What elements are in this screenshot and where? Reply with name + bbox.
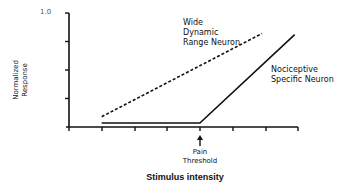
pain-threshold-label: Pain Threshold [180,148,220,166]
x-axis-label: Stimulus intensity [60,172,310,182]
ns-neuron-label: Nociceptive Specific Neuron [271,65,334,85]
y-axis-label: Normalized Response [12,50,52,110]
wdr-neuron-label: Wide Dynamic Range Neuron [183,18,240,48]
chart: Normalized Response 1.0 Wide Dynamic Ran… [0,0,346,195]
up-arrow-icon [197,135,203,146]
y-tick-label-top: 1.0 [40,8,51,16]
